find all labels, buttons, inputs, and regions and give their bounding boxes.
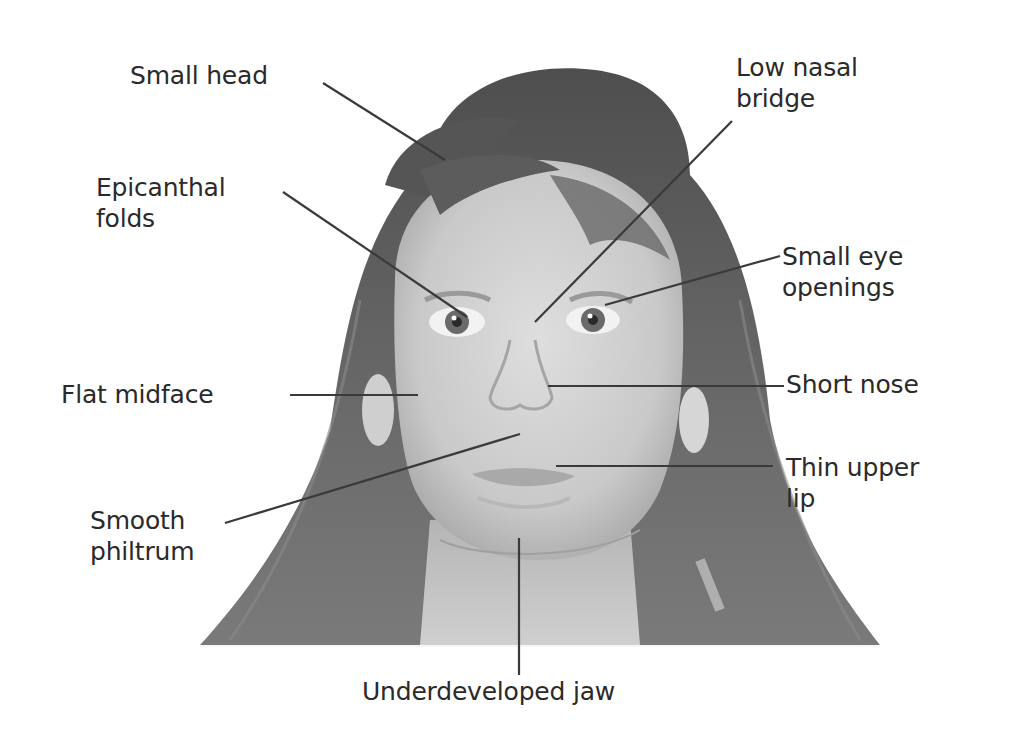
right-eye (566, 306, 620, 334)
label-flat-midface: Flat midface (61, 379, 213, 410)
label-epicanthal-folds: Epicanthal folds (96, 172, 225, 234)
label-underdeveloped-jaw: Underdeveloped jaw (362, 676, 615, 707)
leader-small-head (323, 83, 445, 160)
label-thin-upper-lip: Thin upper lip (786, 452, 919, 514)
left-ear (362, 374, 394, 446)
label-small-eye-openings: Small eye openings (782, 241, 903, 303)
right-ear (679, 387, 709, 453)
facial-features-diagram: Small head Low nasal bridge Epicanthal f… (0, 0, 1025, 744)
label-low-nasal-bridge: Low nasal bridge (736, 52, 858, 114)
label-smooth-philtrum: Smooth philtrum (90, 505, 194, 567)
label-small-head: Small head (130, 60, 268, 91)
label-short-nose: Short nose (786, 369, 919, 400)
